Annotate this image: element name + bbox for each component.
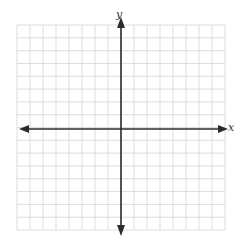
y-axis [117,17,125,236]
x-axis-right-arrow-icon [218,125,228,133]
coordinate-plane [0,0,240,244]
x-axis-left-arrow-icon [19,125,29,133]
x-axis-label: x [228,122,234,133]
x-axis [19,125,228,133]
y-axis-down-arrow-icon [117,225,125,236]
y-axis-label: y [116,9,122,20]
